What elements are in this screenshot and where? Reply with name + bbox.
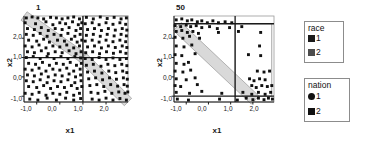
- x-tick-label: 1,0: [67, 105, 89, 112]
- plot-panel-1: 1 x2 x1 2,0 1,0 0,0 -1,0 -1,0 0,0 1,0 2,…: [0, 0, 160, 142]
- x-tick-label: 2,0: [93, 105, 115, 112]
- y-tick-label: -1,0: [150, 95, 172, 102]
- legend-item-nation-2[interactable]: 2: [308, 107, 321, 116]
- legend-race: race 1 2: [304, 21, 344, 63]
- legend-item-nation-1[interactable]: 1: [308, 92, 321, 101]
- legend-swatch-square-icon: [308, 35, 315, 42]
- x-tick-label: -1,0: [165, 105, 187, 112]
- legend-item-label: 2: [316, 48, 321, 57]
- x-tick-label: 1,0: [217, 105, 239, 112]
- x-axis-label-left: x1: [55, 126, 85, 135]
- legend-item-race-2[interactable]: 2: [308, 48, 321, 57]
- legend-nation: nation 1 2: [304, 78, 350, 122]
- plot-canvas-right: [150, 0, 295, 142]
- panel-title-left: 1: [36, 3, 40, 12]
- x-tick-label: -1,0: [15, 105, 37, 112]
- y-tick-label: 1,0: [152, 53, 172, 60]
- legend-item-label: 1: [316, 34, 321, 43]
- y-tick-label: 0,0: [152, 74, 172, 81]
- legend-swatch-circle-icon: [308, 93, 315, 100]
- legend-item-race-1[interactable]: 1: [308, 34, 321, 43]
- x-axis-label-right: x1: [202, 126, 232, 135]
- y-tick-label: 1,0: [2, 53, 22, 60]
- legend-swatch-square-icon: [308, 108, 315, 115]
- scatter-figure: 1 x2 x1 2,0 1,0 0,0 -1,0 -1,0 0,0 1,0 2,…: [0, 0, 371, 142]
- legend-title-nation: nation: [308, 80, 331, 90]
- panel-title-right: 50: [176, 3, 185, 12]
- legend-title-race: race: [308, 23, 325, 33]
- y-tick-label: 2,0: [2, 33, 22, 40]
- y-tick-label: 0,0: [2, 74, 22, 81]
- x-tick-label: 0,0: [41, 105, 63, 112]
- x-tick-label: 2,0: [243, 105, 265, 112]
- legend-swatch-square-icon: [308, 49, 315, 56]
- legend-item-label: 1: [316, 92, 321, 101]
- legend-item-label: 2: [316, 107, 321, 116]
- x-tick-label: 0,0: [191, 105, 213, 112]
- y-tick-label: -1,0: [0, 95, 22, 102]
- plot-panel-50: 50 x2 x1 2,0 1,0 0,0 -1,0 -1,0 0,0 1,0 2…: [150, 0, 295, 142]
- y-tick-label: 2,0: [152, 33, 172, 40]
- legend-area: race 1 2 nation 1 2: [296, 0, 371, 142]
- plot-canvas-left: [0, 0, 160, 142]
